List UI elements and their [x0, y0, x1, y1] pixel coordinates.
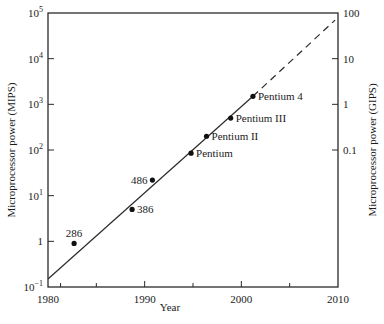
data-point-marker: [150, 177, 155, 182]
x-axis: 1980199020002010: [37, 281, 350, 305]
data-point-marker: [250, 94, 255, 99]
trend-line-solid: [48, 96, 253, 279]
y-tick-label: 1: [38, 235, 44, 247]
data-point-marker: [72, 241, 77, 246]
y-tick-label: 101: [28, 188, 43, 202]
data-point-marker: [204, 134, 209, 139]
y-axis-left: 10−11101102103104105: [23, 5, 54, 293]
y-axis-right-label: Microprocessor power (GIPS): [366, 83, 379, 217]
data-point-marker: [130, 207, 135, 212]
data-point-marker: [228, 115, 233, 120]
data-point-marker: [188, 151, 193, 156]
trend-line-dashed: [253, 20, 335, 96]
data-points: 286386486PentiumPentium IIPentium IIIPen…: [66, 90, 304, 246]
trend-line: [48, 20, 335, 279]
x-tick-label: 2010: [327, 293, 350, 305]
y-axis-label: Microprocessor power (MIPS): [5, 82, 18, 217]
data-point-label: 286: [66, 227, 83, 239]
y-right-tick-label: 0.1: [343, 144, 357, 156]
y-tick-label: 105: [28, 5, 43, 19]
microprocessor-power-chart: 286386486PentiumPentium IIPentium IIIPen…: [0, 0, 384, 324]
x-tick-label: 1990: [134, 293, 157, 305]
x-tick-label: 1980: [37, 293, 60, 305]
data-point-label: Pentium II: [212, 130, 259, 142]
data-point-label: 386: [137, 203, 154, 215]
data-point-label: 486: [131, 174, 148, 186]
x-axis-label: Year: [160, 301, 181, 313]
y-tick-label: 10−1: [23, 279, 43, 293]
y-axis-right: 0.1110100: [332, 7, 360, 156]
y-tick-label: 102: [28, 142, 43, 156]
data-point-label: Pentium III: [236, 112, 287, 124]
y-right-tick-label: 1: [343, 98, 349, 110]
y-right-tick-label: 10: [343, 53, 355, 65]
data-point-label: Pentium: [196, 147, 233, 159]
data-point-label: Pentium 4: [258, 90, 303, 102]
x-tick-label: 2000: [230, 293, 253, 305]
y-right-tick-label: 100: [343, 7, 360, 19]
y-tick-label: 103: [28, 96, 43, 110]
y-tick-label: 104: [28, 51, 43, 65]
